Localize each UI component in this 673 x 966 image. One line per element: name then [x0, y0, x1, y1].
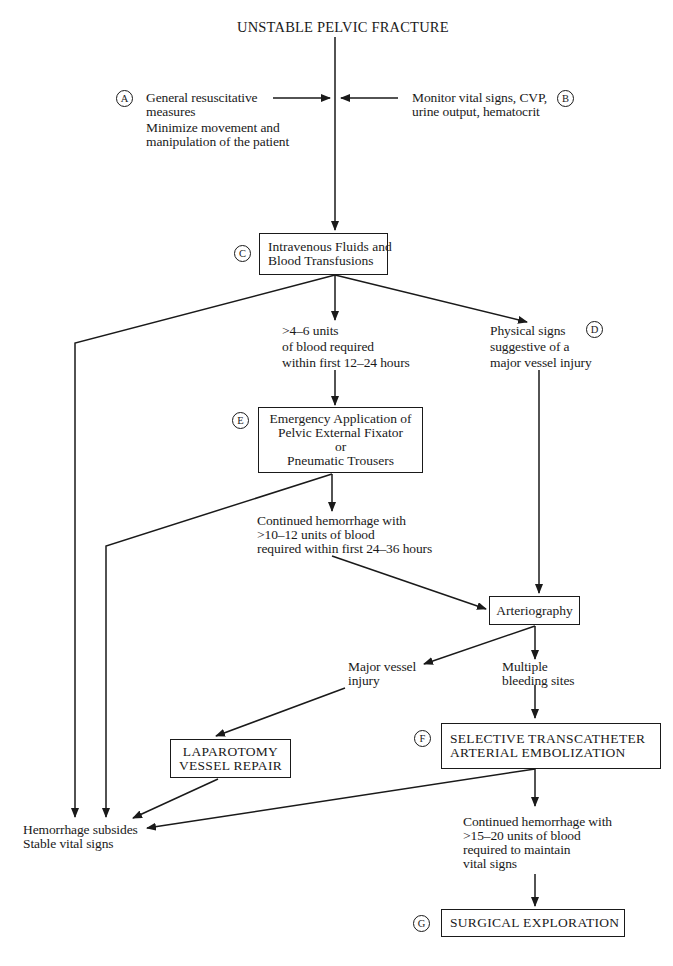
- arrow-blood-to-arteriography: [332, 556, 486, 609]
- arteriography-box: Arteriography: [489, 596, 580, 625]
- step-d-line-2: suggestive of a: [490, 340, 569, 354]
- condition-major-vessel-line-2: injury: [348, 674, 380, 688]
- condition-blood-4-6-line-1: >4–6 units: [282, 324, 339, 338]
- diagram-title: UNSTABLE PELVIC FRACTURE: [237, 20, 449, 34]
- condition-major-vessel-line-1: Major vessel: [348, 660, 416, 674]
- step-e-box: Emergency Application of Pelvic External…: [258, 407, 423, 473]
- step-g-box: SURGICAL EXPLORATION: [441, 909, 625, 937]
- condition-blood-4-6-line-2: of blood required: [282, 340, 374, 354]
- condition-blood-10-12-line-1: Continued hemorrhage with: [257, 514, 406, 528]
- step-a-line-4: manipulation of the patient: [146, 135, 289, 149]
- arrow-laparotomy-to-outcome: [133, 779, 218, 818]
- step-e-line-2: Pelvic External Fixator: [278, 426, 403, 440]
- laparotomy-box: LAPAROTOMY VESSEL REPAIR: [170, 739, 291, 778]
- step-e-line-4: Pneumatic Trousers: [287, 454, 394, 468]
- condition-blood-15-20-line-1: Continued hemorrhage with: [463, 815, 612, 829]
- step-f-line-2: ARTERIAL EMBOLIZATION: [450, 746, 626, 760]
- step-b-line-1: Monitor vital signs, CVP,: [412, 91, 547, 105]
- step-marker-g: G: [413, 915, 430, 932]
- laparotomy-line-1: LAPAROTOMY: [183, 745, 278, 759]
- step-c-line-2: Blood Transfusions: [268, 254, 373, 268]
- step-marker-f: F: [414, 730, 431, 747]
- arrow-major-vessel-to-laparotomy: [216, 688, 345, 736]
- step-c-box: Intravenous Fluids and Blood Transfusion…: [259, 233, 388, 275]
- step-e-line-1: Emergency Application of: [269, 412, 411, 426]
- condition-blood-15-20-line-2: >15–20 units of blood: [463, 829, 581, 843]
- step-d-line-1: Physical signs: [490, 324, 565, 338]
- outcome-line-2: Stable vital signs: [23, 837, 113, 851]
- condition-blood-10-12-line-2: >10–12 units of blood: [257, 528, 375, 542]
- step-marker-b: B: [557, 90, 574, 107]
- step-d-line-3: major vessel injury: [490, 356, 592, 370]
- condition-multiple-sites-line-2: bleeding sites: [502, 674, 574, 688]
- condition-blood-15-20-line-3: required to maintain: [463, 843, 570, 857]
- laparotomy-line-2: VESSEL REPAIR: [179, 759, 282, 773]
- step-a-line-3: Minimize movement and: [146, 121, 280, 135]
- step-b-line-2: urine output, hematocrit: [412, 105, 540, 119]
- condition-blood-10-12-line-3: required within first 24–36 hours: [257, 542, 432, 556]
- arrow-c-to-d: [335, 275, 527, 322]
- step-a-line-1: General resuscitative: [146, 91, 257, 105]
- condition-blood-4-6-line-3: within first 12–24 hours: [282, 356, 410, 370]
- condition-blood-15-20-line-4: vital signs: [463, 857, 517, 871]
- flowchart: UNSTABLE PELVIC FRACTURE A General resus…: [0, 0, 673, 966]
- step-g-line-1: SURGICAL EXPLORATION: [450, 916, 619, 930]
- step-e-line-3: or: [335, 440, 346, 454]
- outcome-line-1: Hemorrhage subsides: [23, 823, 138, 837]
- step-c-line-1: Intravenous Fluids and: [268, 240, 392, 254]
- arteriography-label: Arteriography: [496, 604, 572, 618]
- step-f-box: SELECTIVE TRANSCATHETER ARTERIAL EMBOLIZ…: [441, 723, 661, 769]
- step-f-line-1: SELECTIVE TRANSCATHETER: [450, 732, 645, 746]
- step-marker-c: C: [234, 245, 251, 262]
- condition-multiple-sites-line-1: Multiple: [502, 660, 548, 674]
- step-marker-d: D: [586, 321, 603, 338]
- step-marker-a: A: [116, 90, 133, 107]
- step-a-line-2: measures: [146, 105, 195, 119]
- step-marker-e: E: [232, 412, 249, 429]
